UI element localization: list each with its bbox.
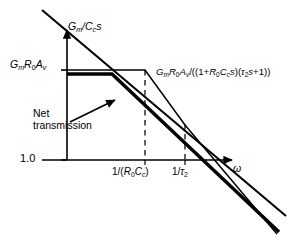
bode-plot-figure: Gm/Ccs GmR0Av GmR0Av/((1+R0Ccs)(τ2s+1)) … [0,0,300,237]
x-tick-label-1-over-r0cc: 1/(R0Cc) [112,166,149,177]
net-transmission-line2: transmission [33,120,92,132]
integrator-asymptote-label: Gm/Ccs [68,21,101,33]
dc-gain-label: GmR0Av [10,59,46,71]
x-axis-label: ω [233,163,241,175]
open-loop-asymptote-curve [67,70,277,234]
net-transmission-label: Net transmission [33,108,92,132]
x-tick-label-1-over-tau2: 1/τ2 [172,166,188,177]
integrator-asymptote-text: Gm/Ccs [68,20,101,32]
net-transmission-curve [67,74,279,232]
unity-gain-label: 1.0 [20,152,35,164]
dc-gain-text: GmR0Av [10,58,46,70]
net-transmission-line1: Net [33,108,92,120]
open-loop-expression-text: GmR0Av/((1+R0Ccs)(τ2s+1)) [156,66,270,77]
open-loop-expression-label: GmR0Av/((1+R0Ccs)(τ2s+1)) [156,67,270,78]
